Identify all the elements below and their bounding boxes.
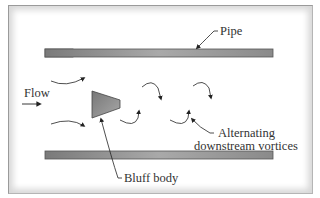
bluff-body-shape [92,91,120,118]
flow-label: Flow [24,87,50,100]
vortex-lower-1-icon [120,111,139,124]
vortex-lower-2-icon [170,111,189,124]
vortices-leader-arrow [192,119,214,133]
bluff-body-leader-arrow [101,119,122,178]
lower-flow-curve-icon [51,121,84,126]
vortex-upper-2-icon [193,82,211,98]
upper-flow-curve-icon [51,78,84,84]
vortex-upper-1-icon [142,83,161,99]
bluff-body-label: Bluff body [124,172,178,185]
pipe-label: Pipe [220,25,242,38]
pipe-leader-arrow [197,31,218,48]
vortices-label-line2: downstream vortices [194,140,298,153]
